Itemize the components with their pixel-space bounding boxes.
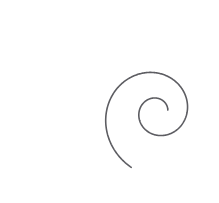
spiral-svg-canvas — [0, 0, 219, 203]
drawing-canvas — [0, 0, 219, 203]
